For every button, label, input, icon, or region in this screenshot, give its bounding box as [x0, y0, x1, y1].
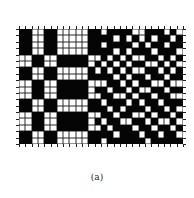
tick-mark — [183, 119, 186, 120]
tick-mark — [120, 144, 121, 147]
tick-mark — [82, 144, 83, 147]
weave-pattern-grid — [19, 29, 183, 144]
tick-mark — [183, 42, 186, 43]
tick-mark — [183, 35, 186, 36]
tick-mark — [88, 144, 89, 147]
tick-mark — [183, 61, 186, 62]
tick-mark — [183, 87, 186, 88]
tick-mark — [183, 80, 186, 81]
tick-mark — [183, 112, 186, 113]
figure-caption: (a) — [0, 172, 194, 182]
tick-mark — [101, 144, 102, 147]
tick-mark — [16, 144, 19, 145]
tick-mark — [51, 144, 52, 147]
figure: (a) — [0, 0, 194, 198]
bottom-tick-marks — [19, 144, 183, 147]
tick-mark — [44, 144, 45, 147]
tick-mark — [183, 74, 186, 75]
tick-mark — [63, 144, 64, 147]
tick-mark — [57, 144, 58, 147]
tick-mark — [183, 99, 186, 100]
tick-mark — [145, 144, 146, 147]
tick-mark — [139, 144, 140, 147]
tick-mark — [183, 144, 186, 145]
tick-mark — [177, 144, 178, 147]
tick-mark — [25, 144, 26, 147]
tick-mark — [126, 144, 127, 147]
tick-mark — [183, 93, 186, 94]
tick-mark — [183, 131, 186, 132]
tick-mark — [38, 144, 39, 147]
tick-mark — [132, 144, 133, 147]
tick-mark — [183, 55, 186, 56]
tick-mark — [32, 144, 33, 147]
grid-cell — [176, 138, 182, 144]
tick-mark — [170, 144, 171, 147]
tick-mark — [19, 144, 20, 147]
weave-grid-wrapper — [19, 29, 183, 144]
tick-mark — [151, 144, 152, 147]
tick-mark — [183, 48, 186, 49]
tick-mark — [183, 67, 186, 68]
tick-mark — [183, 138, 186, 139]
tick-mark — [107, 144, 108, 147]
tick-mark — [164, 144, 165, 147]
tick-mark — [183, 106, 186, 107]
tick-mark — [183, 29, 186, 30]
tick-mark — [183, 125, 186, 126]
tick-mark — [95, 144, 96, 147]
tick-mark — [114, 144, 115, 147]
right-tick-marks — [183, 29, 186, 144]
tick-mark — [76, 144, 77, 147]
tick-mark — [158, 144, 159, 147]
tick-mark — [69, 144, 70, 147]
